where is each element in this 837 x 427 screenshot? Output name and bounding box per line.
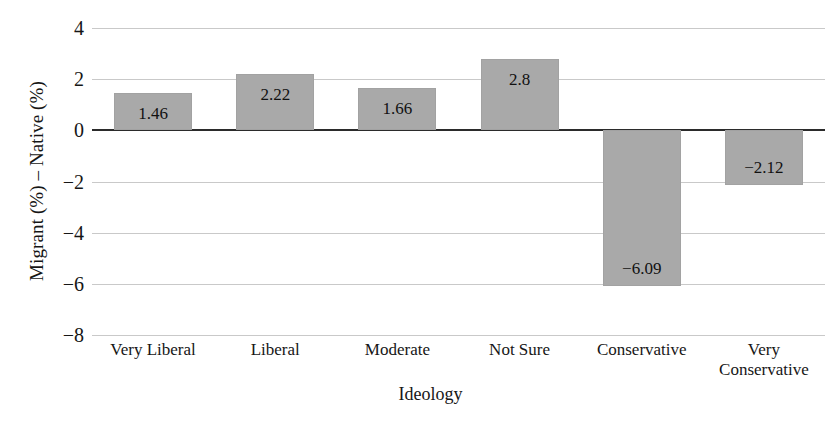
- bar-chart: Migrant (%) – Native (%) 420−2−4−6−8 1.4…: [0, 0, 837, 427]
- y-axis-tick-label: −2: [30, 172, 84, 192]
- x-axis-tick-label: Very Conservative: [691, 340, 837, 380]
- gridline: [92, 28, 825, 29]
- gridline: [92, 335, 825, 336]
- gridline: [92, 182, 825, 183]
- y-axis-tick-label: 0: [30, 120, 84, 140]
- bar-value-label: 1.46: [101, 105, 205, 122]
- bar-value-label: −2.12: [712, 159, 816, 176]
- gridline: [92, 284, 825, 285]
- x-axis-title: Ideology: [0, 384, 837, 405]
- x-axis-title-text: Ideology: [399, 384, 463, 405]
- plot-area: 1.462.221.662.8−6.09−2.12: [92, 28, 825, 335]
- y-axis-tick-label: 2: [30, 69, 84, 89]
- y-axis-tick-label: −6: [30, 274, 84, 294]
- y-axis-tick-label: −4: [30, 223, 84, 243]
- y-axis-tick-label: 4: [30, 18, 84, 38]
- bar-value-label: −6.09: [590, 260, 694, 277]
- bar-value-label: 2.22: [223, 86, 327, 103]
- gridline: [92, 79, 825, 80]
- gridline: [92, 233, 825, 234]
- y-axis-tick-label: −8: [30, 325, 84, 345]
- y-axis-tick-labels: 420−2−4−6−8: [20, 28, 84, 335]
- bar-value-label: 2.8: [468, 71, 572, 88]
- zero-axis-line: [92, 129, 825, 131]
- bar-value-label: 1.66: [345, 100, 449, 117]
